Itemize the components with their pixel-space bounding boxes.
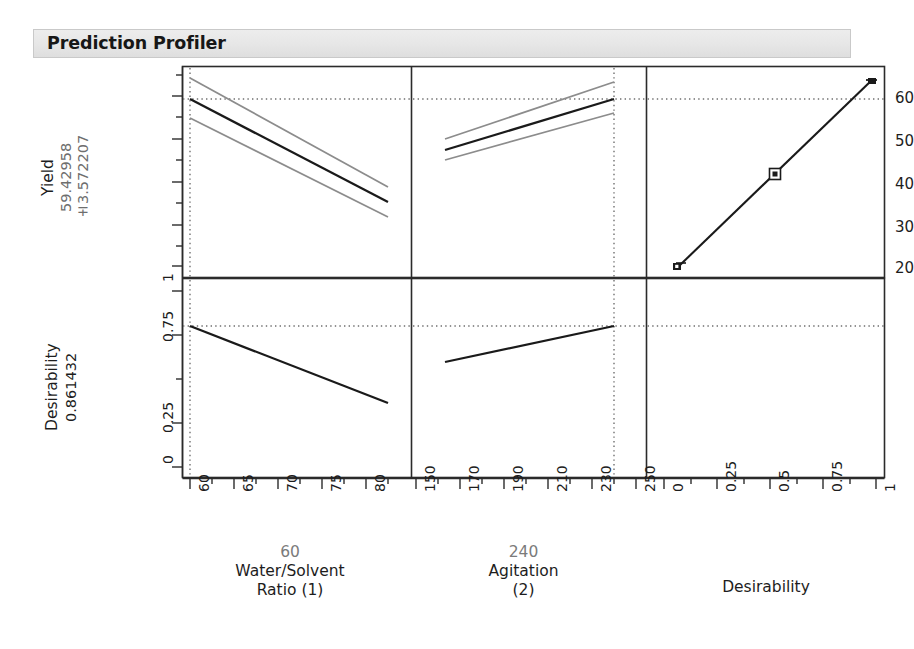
y-axis-ticks	[172, 67, 183, 478]
factor1-current-value[interactable]: 60	[185, 543, 395, 562]
xtick-factor1-4: 80	[372, 474, 388, 492]
plot-frames	[183, 67, 885, 478]
xtick-factor3-2: 0.5	[776, 470, 792, 492]
xtick-factor3-0: 0	[670, 483, 686, 492]
xtick-factor3-4: 1	[882, 483, 898, 492]
xtick-factor3-3: 0.75	[829, 461, 845, 492]
xtick-factor3-1: 0.25	[723, 461, 739, 492]
factor1-name-line2: Ratio (1)	[185, 581, 395, 600]
xtick-factor2-0: 150	[422, 465, 438, 492]
factor2-current-value[interactable]: 240	[416, 543, 631, 562]
xtick-factor2-1: 170	[466, 465, 482, 492]
xtick-factor2-4: 230	[598, 465, 614, 492]
factor3-name-line1: Desirability	[650, 578, 882, 597]
factor-caption-desirability: Desirability	[650, 578, 882, 597]
xtick-factor1-1: 65	[240, 474, 256, 492]
factor2-name-line1: Agitation	[416, 562, 631, 581]
xtick-factor1-3: 75	[328, 474, 344, 492]
prediction-profiler-window: Prediction Profiler Yield 59.42958 ±3.57…	[0, 0, 914, 649]
xtick-factor2-2: 190	[510, 465, 526, 492]
xtick-factor2-3: 210	[554, 465, 570, 492]
desirability-handle-mid[interactable]	[770, 169, 781, 180]
xtick-factor1-0: 60	[196, 474, 212, 492]
xtick-factor2-5: 250	[642, 465, 658, 492]
xtick-factor1-2: 70	[284, 474, 300, 492]
factor-caption-water-solvent[interactable]: 60 Water/Solvent Ratio (1)	[185, 543, 395, 600]
factor-caption-agitation[interactable]: 240 Agitation (2)	[416, 543, 631, 600]
factor1-name-line1: Water/Solvent	[185, 562, 395, 581]
factor2-name-line2: (2)	[416, 581, 631, 600]
